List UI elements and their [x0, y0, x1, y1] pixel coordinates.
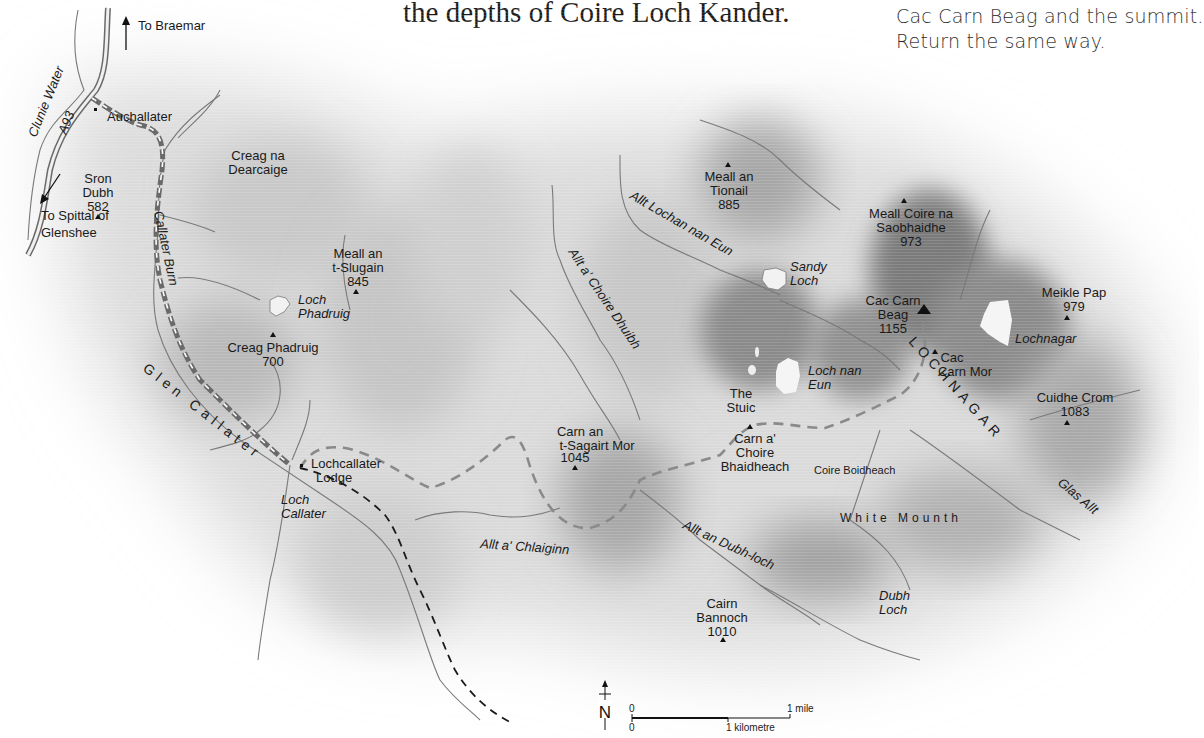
- peak-sron-dubh-name2: Dubh: [82, 185, 113, 200]
- peak-the-stuic-name1: The: [730, 386, 752, 401]
- peak-meall-coire-name1: Meall Coire na: [869, 206, 954, 221]
- peak-carn-an-t-sagairt-height: 1045: [561, 450, 590, 465]
- peak-meall-an-t-slugain-name2: t-Slugain: [332, 260, 383, 275]
- scale-zero-miles: 0: [629, 703, 635, 714]
- peak-creag-na-dearcaige-name2: Dearcaige: [228, 162, 287, 177]
- label-loch-callater-2: Callater: [281, 506, 326, 521]
- label-dubh-loch-2: Loch: [879, 602, 907, 617]
- peak-meall-an-tionail-name2: Tionail: [710, 183, 748, 198]
- label-auchallater: Auchallater: [107, 109, 173, 124]
- settlement-marker-auchallater: [94, 108, 97, 111]
- label-lochcallater-lodge-2: Lodge: [316, 470, 352, 485]
- label-loch-callater-1: Loch: [281, 492, 309, 507]
- peak-creag-na-dearcaige-name1: Creag na: [231, 148, 285, 163]
- peak-carn-a-choire-name2: Choire: [736, 445, 774, 460]
- label-loch-phadruig-2: Phadruig: [298, 306, 351, 321]
- peak-cac-carn-beag-height: 1155: [879, 321, 907, 336]
- label-sandy-loch-1: Sandy: [790, 259, 828, 274]
- peak-meikle-pap-name1: Meikle Pap: [1042, 285, 1106, 300]
- peak-cac-carn-beag-name2: Beag: [878, 307, 908, 322]
- peak-meall-an-t-slugain-name1: Meall an: [333, 246, 382, 261]
- peak-sron-dubh-height: 582: [87, 199, 109, 214]
- peak-creag-phadruig-height: 700: [262, 354, 284, 369]
- peak-meall-coire-height: 973: [900, 234, 922, 249]
- label-loch-nan-eun-2: Eun: [808, 377, 831, 392]
- label-glenshee: Glenshee: [41, 225, 97, 240]
- peak-carn-a-choire-name1: Carn a': [734, 431, 776, 446]
- peak-cairn-bannoch-name2: Bannoch: [696, 610, 747, 625]
- scale-zero-km: 0: [629, 722, 635, 733]
- scale-one-kilometre: 1 kilometre: [726, 722, 775, 733]
- peak-meikle-pap-height: 979: [1063, 299, 1085, 314]
- label-loch-nan-eun-1: Loch nan: [808, 363, 862, 378]
- scale-one-mile: 1 mile: [787, 703, 814, 714]
- peak-meall-an-t-slugain-height: 845: [347, 274, 369, 289]
- label-coire-boidheach: Coire Boidheach: [814, 464, 895, 476]
- peak-creag-phadruig-name1: Creag Phadruig: [227, 340, 318, 355]
- label-lochnagar-loch: Lochnagar: [1015, 331, 1077, 346]
- label-to-braemar: To Braemar: [138, 18, 206, 33]
- peak-meall-an-tionail-height: 885: [718, 197, 740, 212]
- peak-the-stuic-name2: Stuic: [727, 400, 756, 415]
- peak-carn-a-choire-name3: Bhaidheach: [721, 459, 790, 474]
- settlement-marker-lochcallater-lodge: [300, 464, 303, 467]
- peak-cairn-bannoch-height: 1010: [708, 624, 737, 639]
- label-lochcallater-lodge-1: Lochcallater: [311, 456, 382, 471]
- peak-cuidhe-crom-height: 1083: [1061, 404, 1090, 419]
- label-dubh-loch-1: Dubh: [879, 588, 910, 603]
- peak-cuidhe-crom-name1: Cuidhe Crom: [1037, 390, 1114, 405]
- peak-carn-an-t-sagairt-name1: Carn an: [557, 424, 603, 439]
- label-sandy-loch-2: Loch: [790, 273, 818, 288]
- peak-sron-dubh-name1: Sron: [84, 171, 111, 186]
- peak-meall-coire-name2: Saobhaidhe: [876, 220, 945, 235]
- label-white-mounth: White Mounth: [840, 511, 962, 525]
- peak-meall-an-tionail-name1: Meall an: [704, 169, 753, 184]
- peak-cac-carn-beag-name1: Cac Carn: [866, 293, 921, 308]
- label-loch-phadruig-1: Loch: [298, 292, 326, 307]
- north-label: N: [599, 703, 611, 722]
- peak-cairn-bannoch-name1: Cairn: [706, 596, 737, 611]
